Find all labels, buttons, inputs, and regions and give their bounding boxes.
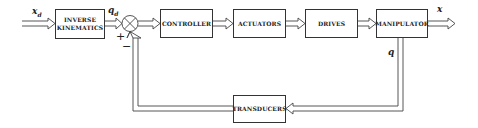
transducers-block: TRANSDUCERS — [233, 95, 286, 123]
inverse-kinematics-block: INVERSE KINEMATICS — [55, 9, 105, 39]
controller-to-actuators-arrow — [213, 18, 233, 29]
drives-label: DRIVES — [318, 20, 345, 28]
actuators-to-drives-arrow — [286, 18, 305, 29]
controller-block: CONTROLLER — [160, 9, 213, 38]
output-signal-label: x — [437, 4, 442, 14]
input-arrow — [22, 18, 55, 29]
inverse-kinematics-label-line1: INVERSE — [64, 16, 96, 24]
minus-sign: − — [122, 40, 131, 53]
feedback-to-transducers-arrow — [286, 38, 403, 114]
actuators-label: ACTUATORS — [238, 20, 281, 28]
drives-block: DRIVES — [305, 9, 358, 38]
output-arrow — [428, 18, 455, 29]
transducers-label: TRANSDUCERS — [232, 105, 286, 113]
ik-to-sum-arrow — [105, 18, 122, 29]
actuators-block: ACTUATORS — [233, 9, 286, 38]
drives-to-manipulator-arrow — [358, 18, 376, 29]
sum-to-controller-arrow — [138, 18, 160, 29]
feedback-to-sum-arrow — [127, 32, 233, 112]
controller-label: CONTROLLER — [162, 20, 211, 28]
feedback-signal-label: q — [388, 47, 394, 57]
joint-reference-label: qd — [108, 5, 119, 17]
input-signal-label: xd — [32, 6, 42, 18]
manipulator-label: MANIPULATOR — [375, 20, 429, 28]
manipulator-block: MANIPULATOR — [376, 9, 428, 38]
inverse-kinematics-label-line2: KINEMATICS — [57, 24, 103, 32]
